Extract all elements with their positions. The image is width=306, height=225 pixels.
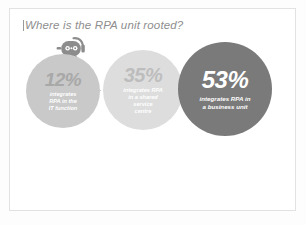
bubble-caption-line: service — [123, 101, 163, 108]
bubble-shared-service-centre: 35% integrates RPA in a shared service c… — [103, 50, 183, 130]
bubble-caption: integrates RPA in a business unit — [200, 95, 251, 110]
bubble-caption: integrates RPA in a shared service centr… — [123, 87, 163, 114]
bubble-caption-line: integrates RPA in — [200, 95, 251, 103]
bubble-caption-line: centre — [123, 108, 163, 115]
bubble-percent: 53% — [202, 68, 249, 92]
bubble-caption-line: IT function — [49, 105, 78, 112]
bubble-chart: 12% integrates RPA in the IT function 35… — [10, 9, 296, 211]
bubble-caption-line: integrates — [49, 91, 78, 98]
bubble-percent: 12% — [45, 70, 82, 89]
bubble-caption-line: a business unit — [200, 103, 251, 111]
bubble-percent: 35% — [124, 65, 163, 85]
slide-frame: Where is the RPA unit rooted? — [9, 8, 296, 211]
bubble-caption: integrates RPA in the IT function — [49, 91, 78, 111]
bubble-caption-line: in a shared — [123, 94, 163, 101]
bubble-it-function: 12% integrates RPA in the IT function — [26, 54, 100, 128]
slide-page: Where is the RPA unit rooted? — [0, 0, 306, 225]
bubble-caption-line: integrates RPA — [123, 87, 163, 94]
bubble-caption-line: RPA in the — [49, 98, 78, 105]
bubble-business-unit: 53% integrates RPA in a business unit — [178, 42, 272, 136]
